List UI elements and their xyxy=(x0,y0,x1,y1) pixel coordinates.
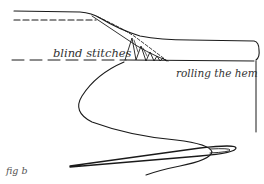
blind-stitches-label: blind stitches xyxy=(53,48,132,60)
hem-illustration: blind stitches rolling the hem fig b xyxy=(0,0,264,184)
fabric-top-edge xyxy=(14,11,259,60)
sewing-diagram xyxy=(0,0,264,184)
figure-caption: fig b xyxy=(6,166,28,176)
rolled-hem xyxy=(126,60,254,61)
rolling-the-hem-label: rolling the hem xyxy=(176,68,258,79)
